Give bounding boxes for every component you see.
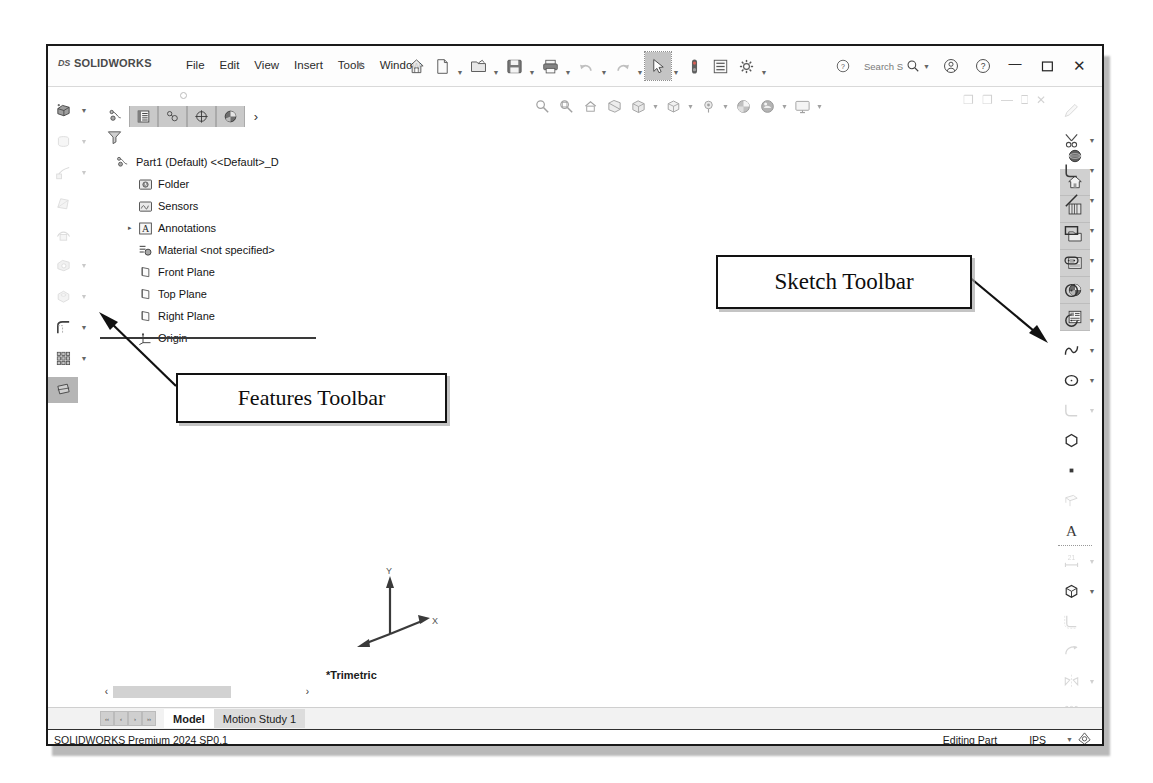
line-corner-button[interactable] [1056,157,1086,183]
three-d-sketch-button-dropdown[interactable]: ▼ [1086,588,1098,595]
open-document-button-dropdown[interactable]: ▼ [491,48,501,85]
user-account-icon[interactable] [936,52,966,80]
tab-nav-arrow-3[interactable]: ›› [142,711,156,726]
feature-manager-expand-chevron[interactable]: › [245,109,267,124]
undo-button-dropdown[interactable]: ▼ [599,48,609,85]
viewport-button[interactable] [790,94,814,118]
apply-scene-button[interactable] [731,94,755,118]
three-d-sketch-button[interactable] [1056,578,1086,604]
tree-item-annotations[interactable]: ▸AAnnotations [102,217,316,239]
plane-sketch-button[interactable] [1056,487,1086,513]
display-manager-tab[interactable] [216,106,245,127]
redo-button[interactable] [609,52,635,80]
new-document-button[interactable] [429,52,455,80]
tree-item-top-plane[interactable]: Top Plane [102,283,316,305]
tab-nav-arrow-0[interactable]: ‹‹ [100,711,114,726]
undo-button[interactable] [573,52,599,80]
file-properties-button[interactable] [707,52,733,80]
polygon-button[interactable] [1056,427,1086,453]
trim-entities-button-dropdown[interactable]: ▼ [1086,137,1098,144]
tree-item-folder[interactable]: Folder [102,173,316,195]
save-button-dropdown[interactable]: ▼ [527,48,537,85]
help-circle-icon[interactable]: ? [828,52,858,80]
doc-restore-icon[interactable]: ❐ [963,93,974,107]
sketch-fillet-button-dropdown[interactable]: ▼ [1086,407,1098,414]
options-button-dropdown[interactable]: ▼ [759,48,769,85]
select-button[interactable] [645,52,671,80]
display-style-button-dropdown[interactable]: ▼ [685,103,696,110]
arc-button[interactable] [1056,307,1086,333]
lofted-boss-base[interactable] [48,191,78,217]
doc-maximize-icon[interactable]: ❐ [982,93,993,107]
feature-manager-tree-tab[interactable] [102,106,129,127]
search-input[interactable]: Search S ▼ [864,59,930,73]
linear-pattern-dropdown[interactable]: ▼ [78,355,90,362]
print-button-dropdown[interactable]: ▼ [563,48,573,85]
select-button-dropdown[interactable]: ▼ [671,48,681,85]
tree-item-right-plane[interactable]: Right Plane [102,305,316,327]
fillet[interactable] [48,315,78,341]
status-overlay-icon[interactable] [1077,731,1102,746]
minimize-button[interactable]: — [1000,49,1030,83]
display-style-button[interactable] [661,94,685,118]
tree-item-part1-default-default-d[interactable]: Part1 (Default) <<Default>_D [102,151,316,173]
boundary-boss-base[interactable] [48,222,78,248]
mirror-entities-button[interactable] [1056,668,1086,694]
mirror-entities-button-dropdown[interactable]: ▼ [1086,678,1098,685]
trim-entities-button[interactable] [1056,127,1086,153]
hide-show-items-button[interactable] [696,94,720,118]
line-corner-button-dropdown[interactable]: ▼ [1086,167,1098,174]
doc-close-icon[interactable]: ✕ [1036,93,1046,107]
slot-button[interactable] [1056,247,1086,273]
new-document-button-dropdown[interactable]: ▼ [455,48,465,85]
menu-item-edit[interactable]: Edit [220,59,240,71]
swept-boss-base[interactable] [48,160,78,186]
document-tab-model[interactable]: Model [164,709,214,728]
tree-item-material-not-specified[interactable]: Material <not specified> [102,239,316,261]
offset-entities-button[interactable] [1056,608,1086,634]
text-button[interactable]: A [1056,517,1086,543]
revolved-boss-base[interactable] [48,129,78,155]
line-button-dropdown[interactable]: ▼ [1086,197,1098,204]
menu-item-view[interactable]: View [254,59,279,71]
close-button[interactable]: ✕ [1064,52,1094,80]
spline-button[interactable] [1056,337,1086,363]
scroll-thumb[interactable] [113,686,231,698]
save-button[interactable] [501,52,527,80]
extruded-cut-dropdown[interactable]: ▼ [78,262,90,269]
rebuild-button[interactable] [681,52,707,80]
circle-button[interactable] [1056,277,1086,303]
print-button[interactable] [537,52,563,80]
tab-nav-arrow-1[interactable]: ‹ [114,711,128,726]
tree-expand-arrow[interactable]: ▸ [124,224,136,232]
circle-button-dropdown[interactable]: ▼ [1086,287,1098,294]
previous-view-button[interactable] [578,94,602,118]
options-button[interactable] [733,52,759,80]
filter-funnel-icon[interactable] [106,129,123,150]
viewport-button-dropdown[interactable]: ▼ [814,103,825,110]
tab-nav-arrows[interactable]: ‹‹‹››› [100,711,156,726]
section-view-button[interactable] [602,94,626,118]
redo-button-dropdown[interactable]: ▼ [635,48,645,85]
sketch-button[interactable] [1056,97,1086,123]
zoom-to-area-button[interactable] [554,94,578,118]
view-orientation-button[interactable] [626,94,650,118]
doc-window-icon[interactable]: ⎕ [1021,93,1028,107]
document-tab-motion-study-1[interactable]: Motion Study 1 [214,709,305,728]
point-button[interactable] [1056,457,1086,483]
smart-dimension-button[interactable]: 21 [1056,548,1086,574]
tree-item-front-plane[interactable]: Front Plane [102,261,316,283]
ellipse-button[interactable] [1056,367,1086,393]
sketch-fillet-button[interactable] [1056,397,1086,423]
view-settings-button[interactable] [755,94,779,118]
swept-boss-base-dropdown[interactable]: ▼ [78,169,90,176]
hole-wizard-dropdown[interactable]: ▼ [78,293,90,300]
status-dropdown-arrow[interactable]: ▼ [1062,736,1077,743]
zoom-to-fit-button[interactable] [530,94,554,118]
hole-wizard[interactable] [48,284,78,310]
property-manager-tab[interactable] [129,106,158,127]
scroll-track[interactable] [113,686,301,698]
revolved-boss-base-dropdown[interactable]: ▼ [78,138,90,145]
ellipse-button-dropdown[interactable]: ▼ [1086,377,1098,384]
dimxpert-manager-tab[interactable] [187,106,216,127]
